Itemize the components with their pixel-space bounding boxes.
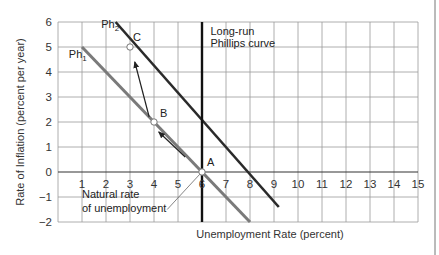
natural-rate-label-line1: Natural rate [82,188,139,200]
point-label-c: C [133,31,141,43]
x-tick-label: 12 [340,178,353,190]
y-tick-label: −2 [39,216,52,228]
y-tick-label: 4 [46,66,53,78]
x-tick-label: 14 [388,178,401,190]
x-tick-label: 6 [199,178,205,190]
phillips-curve-chart: 6543210−1−2123456789101112131415 ABC Une… [0,0,439,255]
point-label-a: A [207,156,215,168]
x-tick-label: 4 [151,178,158,190]
ph1-label-main: Ph [69,48,82,60]
point-marker-c [127,44,133,50]
point-marker-b [151,119,157,125]
movement-arrow [159,132,185,157]
point-marker-a [199,169,205,175]
ph2-label: Ph2 [101,18,119,33]
point-label-b: B [160,107,167,119]
y-tick-label: 3 [46,91,52,103]
ph1-label-sub: 1 [82,54,87,63]
ph2-label-sub: 2 [115,24,120,33]
natural-rate-pointer-line [167,174,200,210]
series-line-ph2 [116,22,279,207]
x-tick-label: 15 [412,178,425,190]
y-tick-label: 0 [46,166,52,178]
x-tick-label: 13 [364,178,377,190]
y-tick-label: 6 [46,16,52,28]
y-axis-label: Rate of Inflation (percent per year) [14,38,26,206]
x-axis-label: Unemployment Rate (percent) [196,228,343,240]
long-run-label-line2: Phillips curve [210,37,275,49]
x-tick-label: 9 [271,178,277,190]
x-tick-label: 7 [223,178,229,190]
y-tick-label: 2 [46,116,52,128]
x-tick-label: 5 [175,178,181,190]
x-tick-label: 11 [316,178,328,190]
y-tick-label: 1 [46,141,52,153]
ph2-label-main: Ph [101,18,114,30]
x-tick-label: 10 [292,178,305,190]
x-tick-label: 8 [247,178,253,190]
long-run-label-line1: Long-run [210,25,254,37]
y-tick-label: −1 [39,191,52,203]
natural-rate-label-line2: of unemployment [82,202,166,214]
y-tick-label: 5 [46,41,52,53]
